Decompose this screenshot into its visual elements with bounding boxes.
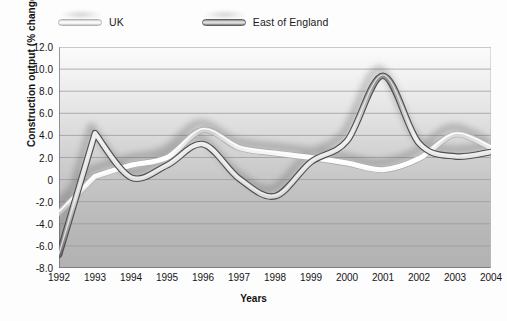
x-tick-label: 1997	[228, 272, 250, 283]
x-tick-label: 2000	[336, 272, 358, 283]
x-tick-label: 1998	[264, 272, 286, 283]
x-tick-label: 1994	[120, 272, 142, 283]
x-tick-label: 2004	[480, 272, 502, 283]
x-tick-label: 2002	[408, 272, 430, 283]
x-tick-label: 1995	[156, 272, 178, 283]
x-tick-label: 1996	[192, 272, 214, 283]
x-tick-label: 1993	[84, 272, 106, 283]
x-tick-label: 1999	[300, 272, 322, 283]
construction-output-line-chart: UK East of England Construction output (…	[0, 0, 507, 321]
x-tick-label: 2001	[372, 272, 394, 283]
x-tick-label: 2003	[444, 272, 466, 283]
x-axis-title: Years	[0, 293, 507, 304]
x-tick-label: 1992	[48, 272, 70, 283]
x-axis-tick-labels: 1992199319941995199619971998199920002001…	[0, 0, 507, 321]
